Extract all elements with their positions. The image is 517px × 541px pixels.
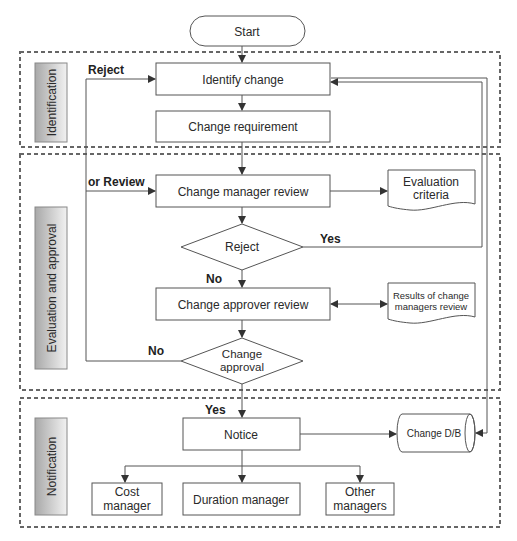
phase-label-notification: Notification bbox=[35, 418, 67, 515]
db-change: Change D/B bbox=[397, 414, 475, 452]
svg-text:Duration manager: Duration manager bbox=[193, 493, 289, 507]
node-cost-manager: Cost manager bbox=[92, 483, 162, 515]
decision-reject: Reject bbox=[181, 224, 303, 270]
svg-text:Start: Start bbox=[234, 25, 260, 39]
edge-label-yes-approval: Yes bbox=[205, 403, 226, 417]
node-duration-manager: Duration manager bbox=[183, 483, 300, 515]
phase-label-evaluation: Evaluation and approval bbox=[35, 207, 67, 369]
start-terminator: Start bbox=[190, 16, 305, 46]
node-notice: Notice bbox=[183, 418, 300, 450]
node-change-approver-review: Change approver review bbox=[156, 288, 330, 320]
decision-change-approval: Change approval bbox=[181, 338, 303, 384]
svg-text:Change D/B: Change D/B bbox=[407, 428, 462, 439]
svg-text:managers review: managers review bbox=[395, 301, 467, 312]
node-identify-change: Identify change bbox=[156, 63, 330, 95]
svg-text:Other: Other bbox=[345, 485, 375, 499]
edge-label-no-approval: No bbox=[148, 344, 164, 358]
svg-text:Identification: Identification bbox=[45, 69, 59, 136]
node-other-managers: Other managers bbox=[326, 483, 394, 515]
edge-label-no-reject: No bbox=[206, 272, 222, 286]
svg-text:Change: Change bbox=[222, 348, 262, 360]
svg-text:approval: approval bbox=[220, 361, 264, 373]
svg-text:Reject: Reject bbox=[225, 240, 260, 254]
svg-text:Notice: Notice bbox=[224, 428, 258, 442]
doc-results-review: Results of change managers review bbox=[388, 283, 475, 323]
svg-text:Identify change: Identify change bbox=[202, 73, 284, 87]
edge-label-yes-reject: Yes bbox=[320, 232, 341, 246]
change-management-flowchart: Identification Evaluation and approval N… bbox=[0, 0, 517, 541]
svg-text:Notification: Notification bbox=[45, 437, 59, 496]
edge-label-or-review: or Review bbox=[88, 175, 145, 189]
svg-text:managers: managers bbox=[333, 499, 386, 513]
svg-text:Change requirement: Change requirement bbox=[188, 120, 298, 134]
node-change-requirement: Change requirement bbox=[156, 111, 330, 142]
node-change-manager-review: Change manager review bbox=[156, 175, 330, 207]
phase-label-identification: Identification bbox=[35, 63, 67, 142]
svg-text:Cost: Cost bbox=[115, 485, 140, 499]
svg-text:Change manager review: Change manager review bbox=[178, 185, 309, 199]
svg-text:criteria: criteria bbox=[413, 188, 449, 202]
svg-text:Results of change: Results of change bbox=[393, 290, 469, 301]
svg-text:Change approver review: Change approver review bbox=[178, 298, 309, 312]
svg-text:manager: manager bbox=[103, 499, 150, 513]
svg-text:Evaluation: Evaluation bbox=[403, 175, 459, 189]
edge-label-reject: Reject bbox=[88, 63, 124, 77]
doc-evaluation-criteria: Evaluation criteria bbox=[388, 170, 475, 210]
svg-text:Evaluation and approval: Evaluation and approval bbox=[45, 224, 59, 353]
